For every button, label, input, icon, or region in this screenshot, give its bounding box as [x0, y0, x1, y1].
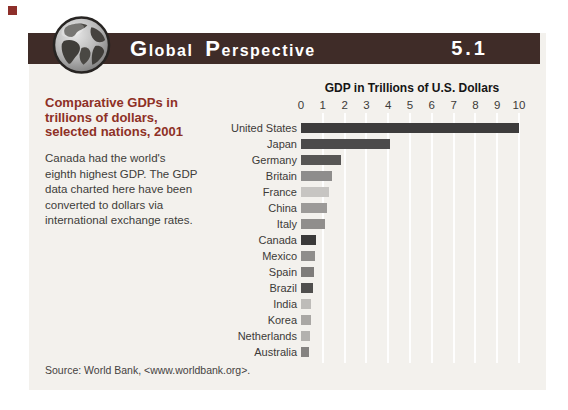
caption-line: international exchange rates. — [45, 213, 245, 229]
x-tick-label: 0 — [291, 99, 311, 111]
chart-row: Brazil — [222, 280, 552, 296]
bar — [301, 299, 311, 309]
chart-row: India — [222, 296, 552, 312]
header-title-rest2: erspective — [222, 42, 316, 59]
bar-label: Spain — [222, 266, 301, 278]
bar — [301, 331, 310, 341]
figure-caption: Canada had the world'seighth highest GDP… — [45, 151, 245, 229]
heading-line: selected nations, 2001 — [45, 125, 240, 140]
bar — [301, 219, 325, 229]
x-axis-ticks: 012345678910 — [222, 99, 552, 113]
header-title-rest1: lobal — [149, 42, 194, 59]
bar — [301, 187, 329, 197]
bar-label: France — [222, 186, 301, 198]
chart-row: Korea — [222, 312, 552, 328]
x-tick-label: 6 — [422, 99, 442, 111]
header-title-cap2: P — [205, 36, 221, 61]
bar — [301, 283, 313, 293]
figure-global-perspective: Global Perspective 5.1 Comparative GDPs … — [0, 0, 568, 410]
bar — [301, 315, 311, 325]
x-tick-label: 5 — [400, 99, 420, 111]
bar-label: Japan — [222, 138, 301, 150]
bar — [301, 155, 341, 165]
heading-line: trillions of dollars, — [45, 111, 240, 126]
bar — [301, 171, 332, 181]
heading-line: Comparative GDPs in — [45, 96, 240, 111]
bar-label: China — [222, 202, 301, 214]
bar-label: Germany — [222, 154, 301, 166]
x-tick-label: 1 — [313, 99, 333, 111]
bar — [301, 347, 309, 357]
bar — [301, 123, 519, 133]
chart-row: Japan — [222, 136, 552, 152]
caption-line: converted to dollars via — [45, 198, 245, 214]
x-tick-label: 3 — [356, 99, 376, 111]
chart-title: GDP in Trillions of U.S. Dollars — [280, 81, 544, 95]
bar — [301, 139, 390, 149]
chart-row: Italy — [222, 216, 552, 232]
chart-row: Canada — [222, 232, 552, 248]
corner-accent-square — [8, 6, 17, 15]
chart-row: Britain — [222, 168, 552, 184]
bar-label: Mexico — [222, 250, 301, 262]
chart-row: Mexico — [222, 248, 552, 264]
chart-row: China — [222, 200, 552, 216]
chart-row: Spain — [222, 264, 552, 280]
chart-row: France — [222, 184, 552, 200]
x-tick-label: 8 — [465, 99, 485, 111]
caption-line: Canada had the world's — [45, 151, 245, 167]
bar — [301, 203, 327, 213]
chart-row: Germany — [222, 152, 552, 168]
figure-heading: Comparative GDPs intrillions of dollars,… — [45, 96, 240, 140]
globe-icon — [52, 15, 111, 75]
bar-label: Britain — [222, 170, 301, 182]
bar-label: India — [222, 298, 301, 310]
header-title-cap1: G — [130, 36, 149, 61]
x-tick-label: 2 — [335, 99, 355, 111]
chart-row: Australia — [222, 344, 552, 360]
chart-row: United States — [222, 120, 552, 136]
bar-label: Netherlands — [222, 330, 301, 342]
bar — [301, 251, 315, 261]
x-tick-label: 9 — [487, 99, 507, 111]
bar-label: Italy — [222, 218, 301, 230]
header-figure-number: 5.1 — [451, 37, 540, 60]
x-tick-label: 10 — [509, 99, 529, 111]
caption-line: data charted here have been — [45, 182, 245, 198]
chart-rows: United StatesJapanGermanyBritainFranceCh… — [222, 120, 552, 360]
bar-label: United States — [222, 122, 301, 134]
bar — [301, 267, 314, 277]
x-tick-label: 7 — [444, 99, 464, 111]
bar — [301, 235, 316, 245]
x-tick-label: 4 — [378, 99, 398, 111]
source-note: Source: World Bank, <www.worldbank.org>. — [45, 364, 250, 376]
chart-row: Netherlands — [222, 328, 552, 344]
bar-label: Australia — [222, 346, 301, 358]
caption-line: eighth highest GDP. The GDP — [45, 167, 245, 183]
bar-label: Brazil — [222, 282, 301, 294]
bar-label: Korea — [222, 314, 301, 326]
bar-label: Canada — [222, 234, 301, 246]
